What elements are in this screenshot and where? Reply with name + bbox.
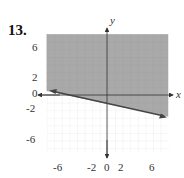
inequality-graph: y x 6 2 0 -2 -6 -6 -2 0 2 6: [0, 0, 184, 178]
x-tick-0: 0: [104, 161, 110, 173]
x-tick-2: 2: [118, 161, 124, 173]
x-axis-label: x: [175, 88, 181, 100]
x-tick-6: 6: [149, 161, 155, 173]
x-tick-neg6: -6: [53, 161, 63, 173]
y-tick-0: 0: [32, 87, 38, 99]
x-tick-neg2: -2: [87, 161, 96, 173]
y-tick-neg6: -6: [26, 133, 36, 145]
y-tick-6: 6: [32, 41, 38, 53]
y-tick-2: 2: [32, 71, 38, 83]
y-axis-label: y: [109, 14, 115, 26]
y-tick-neg2: -2: [26, 102, 35, 114]
